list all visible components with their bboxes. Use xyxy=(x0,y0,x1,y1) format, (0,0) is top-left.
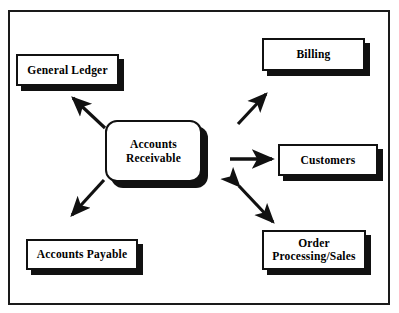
diagram-canvas: General Ledger Billing Customers Order P… xyxy=(0,0,399,313)
node-general-ledger[interactable]: General Ledger xyxy=(16,54,119,86)
node-order-processing-sales-label: Order Processing/Sales xyxy=(272,237,356,263)
node-accounts-payable[interactable]: Accounts Payable xyxy=(26,239,138,270)
node-accounts-payable-label: Accounts Payable xyxy=(37,248,127,261)
node-customers-label: Customers xyxy=(301,154,356,167)
node-billing-label: Billing xyxy=(297,48,331,61)
node-general-ledger-label: General Ledger xyxy=(27,64,107,77)
node-order-processing-sales[interactable]: Order Processing/Sales xyxy=(262,230,366,270)
node-billing[interactable]: Billing xyxy=(262,38,365,71)
node-customers[interactable]: Customers xyxy=(278,144,378,176)
node-accounts-receivable[interactable]: Accounts Receivable xyxy=(105,120,202,182)
node-accounts-receivable-label: Accounts Receivable xyxy=(126,137,181,166)
